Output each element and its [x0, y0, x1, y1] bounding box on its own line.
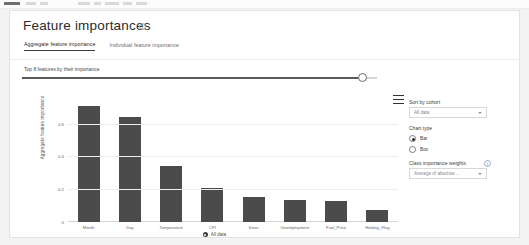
chart-type-label: Chart type	[409, 125, 509, 131]
tab-divider	[10, 59, 521, 60]
strip-blob	[123, 2, 132, 5]
slider-filled-track	[22, 77, 362, 79]
class-importance-weights-select[interactable]: Average of absolute ...	[409, 168, 487, 179]
info-circle-icon[interactable]: i	[139, 23, 146, 30]
bar-column[interactable]: Store	[233, 99, 274, 222]
info-circle-icon[interactable]: i	[484, 160, 491, 167]
x-axis-tick: Day	[126, 225, 133, 230]
window-top-strip	[0, 0, 529, 9]
y-axis-tick: 0.6	[58, 121, 64, 126]
page-title: Feature importances	[23, 18, 151, 33]
y-axis-tick: 0	[62, 220, 64, 225]
x-axis-tick: Holiday_Flag	[365, 225, 389, 230]
bar-series: MonthDayTemperatureCPIStoreUnemploymentF…	[68, 99, 398, 222]
chart-type-group: Chart type Bar Box	[409, 125, 509, 153]
feature-importance-chart: Aggregate feature importance MonthDayTem…	[22, 91, 407, 239]
top-features-slider[interactable]	[22, 72, 377, 84]
x-axis-tick: Month	[83, 225, 95, 230]
radio-bar-label: Bar	[420, 136, 427, 141]
chart-settings-panel: Sort by cohort All data Chart type Bar B…	[409, 99, 509, 224]
sort-by-cohort-select[interactable]: All data	[409, 107, 487, 118]
bar-column[interactable]: Holiday_Flag	[357, 99, 398, 222]
radio-box-label: Box	[420, 147, 428, 152]
class-importance-weights-value: Average of absolute ...	[414, 171, 460, 176]
class-importance-weights-label: Class importance weights	[409, 160, 491, 166]
y-axis-tick: 0.4	[58, 154, 64, 159]
class-importance-weights-group: Class importance weights i Average of ab…	[409, 160, 509, 179]
x-axis-tick: Fuel_Price	[326, 225, 346, 230]
chart-type-option-box[interactable]: Box	[409, 146, 509, 153]
x-axis-tick: Temperature	[159, 225, 183, 230]
strip-blob	[78, 2, 90, 5]
y-axis-tick: 0.2	[58, 187, 64, 192]
x-axis-tick: Unemployment	[281, 225, 309, 230]
strip-blob	[105, 2, 119, 5]
bar-column[interactable]: Day	[109, 99, 150, 222]
sort-by-cohort-label: Sort by cohort	[409, 99, 509, 105]
bar-column[interactable]: Unemployment	[274, 99, 315, 222]
x-axis-tick: CPI	[209, 225, 216, 230]
radio-box[interactable]	[409, 146, 416, 153]
bar[interactable]	[119, 117, 141, 222]
filled-circle-marker	[203, 232, 208, 237]
chevron-down-icon	[478, 173, 482, 175]
bar-column[interactable]: Fuel_Price	[316, 99, 357, 222]
bar[interactable]	[366, 210, 388, 222]
tab-aggregate-feature-importance[interactable]: Aggregate feature importance	[24, 41, 95, 51]
strip-blob	[26, 2, 36, 5]
sort-by-cohort-group: Sort by cohort All data	[409, 99, 509, 118]
tab-individual-feature-importance[interactable]: Individual feature importance	[109, 42, 179, 51]
strip-blob	[136, 2, 147, 5]
chart-legend: All data	[22, 232, 407, 237]
bar[interactable]	[243, 197, 265, 222]
chart-type-option-bar[interactable]: Bar	[409, 135, 509, 142]
legend-label: All data	[211, 232, 226, 237]
chart-plot-area: MonthDayTemperatureCPIStoreUnemploymentF…	[68, 99, 398, 222]
strip-blob	[4, 2, 20, 5]
feature-importances-card: Feature importances i Aggregate feature …	[9, 10, 520, 238]
tab-bar: Aggregate feature importance Individual …	[24, 41, 179, 51]
y-axis-label: Aggregate feature importance	[40, 86, 45, 170]
bar-column[interactable]: Month	[68, 99, 109, 222]
strip-blob	[94, 2, 101, 5]
feature-importances-screen: Feature importances i Aggregate feature …	[0, 0, 529, 245]
gridline	[68, 156, 398, 157]
x-axis-tick: Store	[249, 225, 259, 230]
bar[interactable]	[160, 166, 182, 222]
gridline	[68, 189, 398, 190]
bar[interactable]	[284, 200, 306, 222]
strip-blob	[40, 2, 48, 5]
radio-bar[interactable]	[409, 135, 416, 142]
bar[interactable]	[325, 201, 347, 222]
bar[interactable]	[201, 188, 223, 222]
bar-column[interactable]: Temperature	[151, 99, 192, 222]
bar-column[interactable]: CPI	[192, 99, 233, 222]
slider-thumb[interactable]	[358, 73, 367, 82]
gridline	[68, 124, 398, 125]
chevron-down-icon	[478, 112, 482, 114]
sort-by-cohort-value: All data	[414, 110, 429, 115]
